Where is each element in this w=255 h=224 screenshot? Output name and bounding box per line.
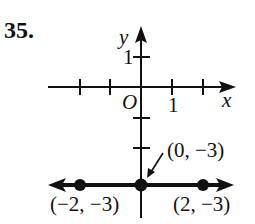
point-label-2-neg3: (2, −3) [173, 192, 230, 216]
y-tick-label: 1 [123, 45, 134, 69]
point-neg2-neg3 [74, 179, 86, 191]
point-2-neg3 [197, 179, 209, 191]
origin-label: O [122, 90, 137, 114]
point-label-neg2-neg3: (−2, −3) [50, 192, 119, 216]
graph: y 1 O 1 x (0, −3) (−2, −3) (2, −3) [0, 0, 255, 224]
point-label-0-neg3: (0, −3) [167, 138, 224, 162]
x-axis-label: x [221, 88, 232, 112]
point-0-neg3 [135, 179, 148, 192]
pointer-arrow-icon [147, 153, 163, 178]
x-tick-label: 1 [168, 93, 179, 117]
